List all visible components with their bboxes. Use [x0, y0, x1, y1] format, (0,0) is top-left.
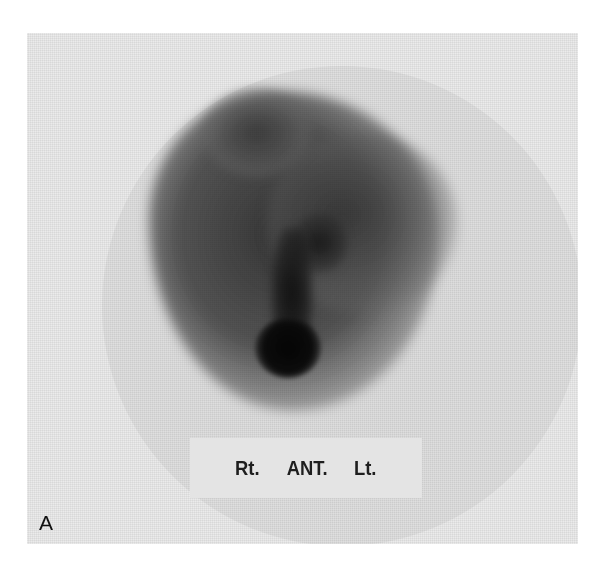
- label-view: ANT.: [287, 457, 328, 480]
- label-left: Lt.: [354, 457, 376, 480]
- scintigram-panel: Rt. ANT. Lt. A: [27, 33, 578, 544]
- orientation-label-box: Rt. ANT. Lt.: [190, 438, 422, 498]
- label-right: Rt.: [235, 457, 260, 480]
- panel-label: A: [39, 511, 53, 535]
